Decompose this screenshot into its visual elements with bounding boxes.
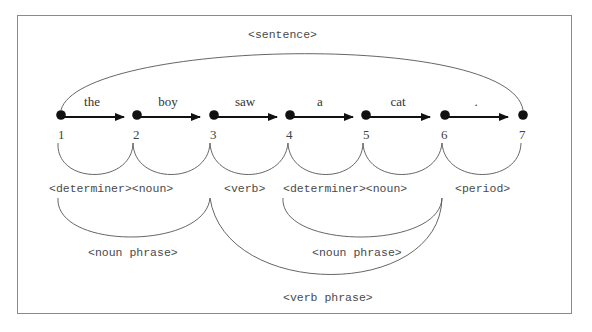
verb-phrase-label: <verb phrase> <box>283 291 373 304</box>
node-number: 4 <box>286 127 293 142</box>
node-dot <box>285 110 295 120</box>
node-number: 3 <box>210 127 217 142</box>
word-label: saw <box>235 94 256 109</box>
pos-label-det-noun-1: <determiner><noun> <box>49 182 173 195</box>
noun-phrase-1-label: <noun phrase> <box>88 246 178 259</box>
noun-phrase-2-label: <noun phrase> <box>312 246 402 259</box>
word-label: . <box>474 94 477 109</box>
node-dot <box>518 110 528 120</box>
edge-6-7: . <box>445 94 508 117</box>
nodes <box>56 110 528 120</box>
node-dot <box>440 110 450 120</box>
node-dot <box>209 110 219 120</box>
noun-phrase-1-arc <box>58 198 210 237</box>
node-number: 7 <box>519 127 526 142</box>
pos-label-det-noun-2: <determiner><noun> <box>283 182 407 195</box>
word-label: boy <box>158 94 178 109</box>
edge-2-3: boy <box>137 94 200 117</box>
node-numbers: 1 2 3 4 5 6 7 <box>58 127 526 142</box>
word-label: cat <box>390 94 406 109</box>
word-arcs <box>58 143 521 175</box>
word-label: a <box>317 94 323 109</box>
node-number: 6 <box>441 127 448 142</box>
verb-phrase-arc <box>210 198 442 275</box>
parse-chart-diagram: <sentence> the boy saw a cat . 1 2 3 4 <box>0 0 592 332</box>
node-number: 5 <box>363 127 370 142</box>
pos-label-period: <period> <box>455 182 510 195</box>
node-dot <box>132 110 142 120</box>
node-dot <box>56 110 66 120</box>
edge-4-5: a <box>290 94 353 117</box>
pos-label-verb: <verb> <box>224 182 266 195</box>
word-label: the <box>84 94 100 109</box>
edge-3-4: saw <box>214 94 277 117</box>
noun-phrase-2-arc <box>283 198 442 237</box>
node-number: 1 <box>58 127 65 142</box>
sentence-label: <sentence> <box>248 28 317 41</box>
edge-5-6: cat <box>366 94 430 117</box>
edge-1-2: the <box>61 94 124 117</box>
node-number: 2 <box>133 127 140 142</box>
sentence-arc <box>61 54 523 110</box>
node-dot <box>361 110 371 120</box>
